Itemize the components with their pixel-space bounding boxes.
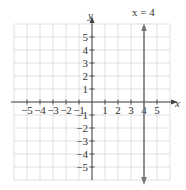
y-tick-label: 4: [83, 44, 89, 56]
x-tick-label: −4: [34, 104, 46, 116]
x-tick-label: −3: [47, 104, 59, 116]
y-axis-label: y: [87, 9, 93, 21]
y-tick-label: 5: [83, 31, 89, 43]
y-tick-label: −3: [76, 135, 88, 147]
x-tick-label: −5: [21, 104, 33, 116]
x-tick-label: 3: [128, 104, 134, 116]
y-tick-label: 2: [83, 70, 89, 82]
coordinate-plane: −5−4−3−2−11234554321−1−2−3−4−5 x y x = 4: [0, 0, 186, 190]
x-tick-label: 2: [115, 104, 121, 116]
line-arrow-down-icon: [141, 177, 147, 185]
y-tick-label: −1: [76, 109, 88, 121]
y-tick-label: −4: [76, 148, 88, 160]
line-equation-label: x = 4: [132, 6, 155, 18]
y-tick-label: 3: [83, 57, 89, 69]
x-tick-label: −2: [60, 104, 72, 116]
x-tick-label: 5: [154, 104, 160, 116]
axes: [11, 16, 178, 180]
y-tick-label: −5: [76, 161, 88, 173]
x-axis-label: x: [174, 97, 180, 109]
y-tick-label: 1: [83, 83, 89, 95]
y-tick-label: −2: [76, 122, 88, 134]
x-tick-label: 1: [102, 104, 108, 116]
